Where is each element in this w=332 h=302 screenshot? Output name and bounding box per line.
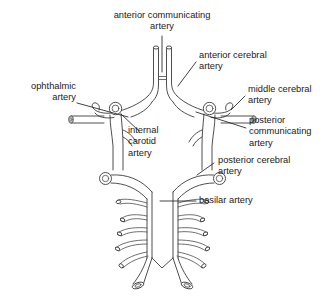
pontine-branches-left: [115, 199, 148, 268]
leader-anterior-cerebral: [178, 62, 196, 86]
label-posterior-communicating-artery: posterior communicating artery: [249, 115, 331, 149]
label-internal-carotid-artery: internal carotid artery: [128, 125, 184, 159]
anterior-cerebral-artery-right: [166, 46, 177, 102]
label-anterior-cerebral-artery: anterior cerebral artery: [199, 50, 299, 73]
leader-posterior-cerebral: [197, 163, 214, 175]
anterior-circulation-junction: [112, 96, 213, 117]
posterior-communicating-artery-right: [189, 130, 202, 146]
label-middle-cerebral-artery: middle cerebral artery: [248, 84, 332, 107]
label-posterior-cerebral-artery: posterior cerebral artery: [218, 155, 332, 178]
anterior-cerebral-artery-left: [148, 46, 159, 102]
vertebral-artery-left: [131, 258, 152, 290]
label-basilar-artery: basilar artery: [199, 195, 299, 206]
ophthalmic-artery-left: [69, 116, 104, 123]
label-anterior-communicating-artery: anterior communicating artery: [94, 10, 230, 33]
posterior-cerebral-artery-left: [100, 173, 153, 200]
leader-middle-cerebral: [231, 96, 245, 110]
basilar-artery: [147, 192, 178, 258]
vertebrobasilar-junction: [152, 258, 173, 268]
pontine-branches-right: [177, 199, 210, 268]
label-ophthalmic-artery: ophthalmic artery: [6, 81, 76, 104]
internal-carotid-artery-right: [202, 102, 216, 170]
vertebral-artery-right: [173, 258, 194, 290]
anterior-communicating-artery: [159, 77, 167, 80]
circle-of-willis-figure: anterior communicating artery anterior c…: [0, 0, 332, 302]
